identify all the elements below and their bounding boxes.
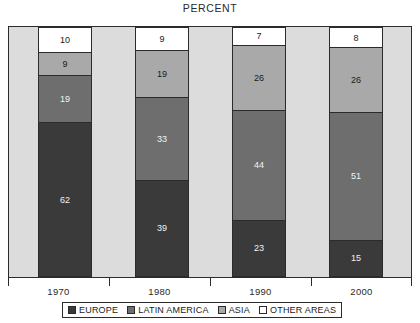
- x-axis-tick: [109, 278, 110, 286]
- segment-asia[interactable]: 9: [38, 52, 92, 75]
- segment-latin-america[interactable]: 19: [38, 75, 92, 123]
- segment-latin-america[interactable]: 51: [329, 112, 383, 240]
- segment-other-areas[interactable]: 9: [135, 27, 189, 50]
- legend-swatch-europe-icon: [68, 306, 76, 314]
- chart-legend: EUROPE LATIN AMERICA ASIA OTHER AREAS: [62, 302, 342, 318]
- x-axis-label-2000: 2000: [311, 286, 412, 297]
- x-axis-label-1980: 1980: [109, 286, 210, 297]
- legend-label-other-areas: OTHER AREAS: [270, 305, 336, 315]
- segment-asia[interactable]: 26: [329, 47, 383, 112]
- legend-swatch-other-areas-icon: [259, 306, 267, 314]
- segment-asia[interactable]: 26: [232, 45, 286, 110]
- legend-label-latin-america: LATIN AMERICA: [138, 305, 208, 315]
- stacked-bar-1970[interactable]: 10 9 19 62: [38, 27, 92, 277]
- x-axis-tick: [411, 278, 412, 286]
- segment-europe[interactable]: 15: [329, 240, 383, 278]
- stacked-bar-2000[interactable]: 8 26 51 15: [329, 27, 383, 277]
- bars-layer: 10 9 19 62 9 19 33 39 7 26 44 23 8 26 51: [9, 27, 411, 277]
- x-axis-label-1990: 1990: [210, 286, 311, 297]
- legend-label-europe: EUROPE: [79, 305, 118, 315]
- segment-asia[interactable]: 19: [135, 50, 189, 98]
- stacked-bar-1990[interactable]: 7 26 44 23: [232, 27, 286, 277]
- x-axis-tick: [210, 278, 211, 286]
- segment-other-areas[interactable]: 7: [232, 27, 286, 45]
- legend-item-other-areas[interactable]: OTHER AREAS: [259, 305, 336, 315]
- legend-swatch-asia-icon: [218, 306, 226, 314]
- legend-swatch-latin-america-icon: [127, 306, 135, 314]
- segment-europe[interactable]: 39: [135, 180, 189, 278]
- plot-area: 10 9 19 62 9 19 33 39 7 26 44 23 8 26 51: [8, 26, 412, 278]
- segment-europe[interactable]: 62: [38, 122, 92, 277]
- legend-label-asia: ASIA: [229, 305, 250, 315]
- segment-europe[interactable]: 23: [232, 220, 286, 278]
- legend-item-asia[interactable]: ASIA: [218, 305, 250, 315]
- legend-item-europe[interactable]: EUROPE: [68, 305, 118, 315]
- stacked-bar-chart: PERCENT 10 9 19 62 9 19 33 39 7 26 44 23: [0, 0, 420, 323]
- x-axis-tick: [8, 278, 9, 286]
- segment-other-areas[interactable]: 8: [329, 27, 383, 47]
- stacked-bar-1980[interactable]: 9 19 33 39: [135, 27, 189, 277]
- x-axis-tick: [311, 278, 312, 286]
- segment-latin-america[interactable]: 33: [135, 97, 189, 180]
- chart-title: PERCENT: [0, 2, 420, 14]
- legend-item-latin-america[interactable]: LATIN AMERICA: [127, 305, 208, 315]
- segment-latin-america[interactable]: 44: [232, 110, 286, 220]
- segment-other-areas[interactable]: 10: [38, 27, 92, 52]
- x-axis-label-1970: 1970: [8, 286, 109, 297]
